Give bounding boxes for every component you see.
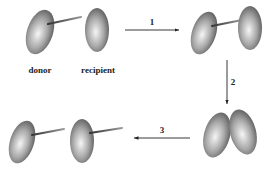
stage-separated	[4, 117, 122, 166]
donor-cell	[186, 8, 222, 57]
step-3-arrow: 3	[134, 125, 190, 138]
former-recipient-cell	[70, 119, 94, 163]
pilus	[90, 128, 122, 133]
step-1-arrow: 1	[125, 17, 179, 30]
pilus	[32, 129, 64, 135]
conjugation-diagram: donor recipient 1 2 3	[0, 0, 275, 170]
step-1-label: 1	[150, 17, 155, 27]
recipient-cell	[238, 6, 262, 50]
recipient-label: recipient	[81, 65, 115, 75]
step-2-label: 2	[231, 77, 236, 87]
recipient-cell	[224, 106, 261, 157]
former-donor-cell	[4, 117, 40, 166]
donor-cell	[21, 6, 60, 58]
step-2-arrow: 2	[227, 60, 236, 104]
donor-cell	[198, 109, 235, 160]
stage-mating-pair	[198, 106, 261, 160]
donor-label: donor	[28, 65, 51, 75]
step-3-label: 3	[160, 125, 165, 135]
stage-initial: donor recipient	[21, 6, 115, 75]
stage-pilus-attached	[186, 6, 262, 58]
recipient-cell	[85, 8, 109, 52]
